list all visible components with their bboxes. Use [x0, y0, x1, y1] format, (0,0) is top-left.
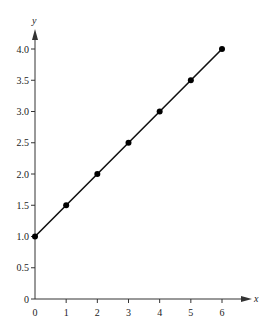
data-point-marker — [126, 140, 132, 146]
data-point-marker — [63, 202, 69, 208]
x-tick-label: 2 — [95, 307, 100, 318]
plot-area: 012345600.51.01.52.02.53.03.54.0 x y — [0, 0, 265, 333]
x-axis-label: x — [253, 293, 259, 304]
y-axis-label: y — [31, 15, 37, 26]
data-point-marker — [188, 77, 194, 83]
x-tick-label: 6 — [220, 307, 225, 318]
x-tick-label: 5 — [188, 307, 193, 318]
y-tick-label: 0.5 — [17, 262, 30, 273]
data-point-marker — [157, 109, 163, 115]
x-tick-label: 4 — [157, 307, 162, 318]
y-tick-label: 3.5 — [17, 75, 30, 86]
axes — [32, 29, 252, 302]
data-series — [32, 46, 225, 240]
data-point-marker — [219, 46, 225, 52]
line-chart: 012345600.51.01.52.02.53.03.54.0 x y — [0, 0, 265, 333]
y-tick-label: 2.5 — [17, 137, 30, 148]
x-axis-arrow-icon — [241, 296, 252, 302]
y-tick-label: 1.5 — [17, 200, 30, 211]
y-tick-label: 2.0 — [17, 169, 30, 180]
x-tick-label: 3 — [126, 307, 131, 318]
data-point-marker — [32, 234, 38, 240]
y-tick-label: 3.0 — [17, 106, 30, 117]
y-tick-label: 1.0 — [17, 231, 30, 242]
y-tick-label: 0 — [24, 294, 29, 305]
x-tick-label: 0 — [33, 307, 38, 318]
y-tick-label: 4.0 — [17, 44, 30, 55]
data-point-marker — [94, 171, 100, 177]
y-axis-arrow-icon — [32, 29, 38, 40]
x-tick-label: 1 — [64, 307, 69, 318]
ticks: 012345600.51.01.52.02.53.03.54.0 — [17, 44, 225, 319]
